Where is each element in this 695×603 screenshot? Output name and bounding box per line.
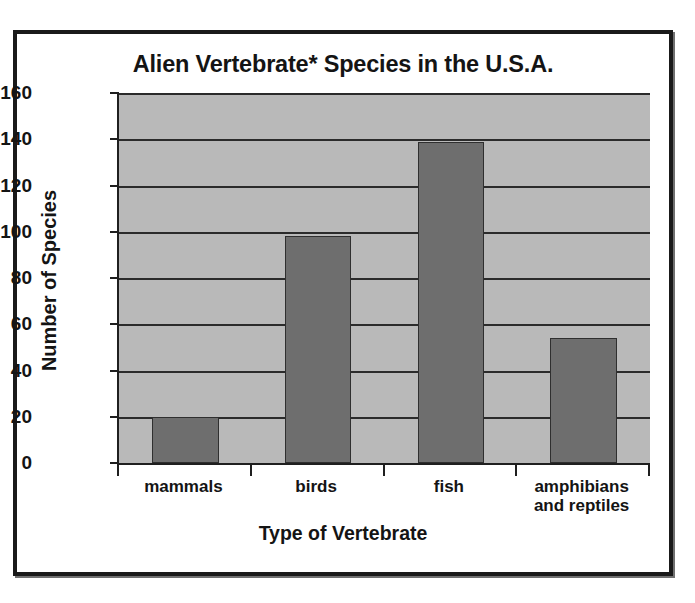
gridline-160 <box>119 93 650 95</box>
x-cat-label-line: amphibians <box>507 477 657 496</box>
y-tick-mark-80 <box>110 277 119 279</box>
bar-mammals <box>152 417 218 463</box>
y-tick-mark-20 <box>110 416 119 418</box>
y-tick-mark-100 <box>110 231 119 233</box>
y-tick-label-80: 80 <box>0 267 32 289</box>
x-tick-mark-1 <box>250 465 252 476</box>
chart-title: Alien Vertebrate* Species in the U.S.A. <box>17 51 669 78</box>
bar-amphibians-and-reptiles <box>550 338 616 463</box>
y-tick-label-120: 120 <box>0 175 32 197</box>
x-tick-mark-3 <box>515 465 517 476</box>
bar-birds <box>285 236 351 463</box>
x-category-label-amphibians-and-reptiles: amphibiansand reptiles <box>507 477 657 515</box>
x-axis-title: Type of Vertebrate <box>17 522 669 545</box>
x-tick-mark-0 <box>117 465 119 476</box>
y-tick-label-20: 20 <box>0 406 32 428</box>
y-tick-mark-120 <box>110 185 119 187</box>
y-tick-mark-40 <box>110 370 119 372</box>
gridline-120 <box>119 186 650 188</box>
x-cat-label-line: birds <box>241 477 391 496</box>
y-tick-mark-60 <box>110 323 119 325</box>
x-cat-label-line: mammals <box>108 477 258 496</box>
gridline-100 <box>119 232 650 234</box>
x-tick-mark-end <box>648 465 650 476</box>
x-category-label-fish: fish <box>374 477 524 496</box>
plot-area <box>117 93 650 465</box>
y-tick-mark-160 <box>110 92 119 94</box>
y-tick-mark-0 <box>110 462 119 464</box>
x-cat-label-line: fish <box>374 477 524 496</box>
y-tick-label-0: 0 <box>0 452 32 474</box>
y-tick-label-140: 140 <box>0 128 32 150</box>
x-cat-label-line: and reptiles <box>507 496 657 515</box>
y-tick-label-60: 60 <box>0 313 32 335</box>
figure-frame: Alien Vertebrate* Species in the U.S.A. … <box>13 30 673 576</box>
gridline-140 <box>119 139 650 141</box>
y-tick-label-100: 100 <box>0 221 32 243</box>
x-category-label-birds: birds <box>241 477 391 496</box>
x-tick-mark-2 <box>383 465 385 476</box>
y-axis-title: Number of Species <box>38 171 61 391</box>
x-category-label-mammals: mammals <box>108 477 258 496</box>
gridline-60 <box>119 324 650 326</box>
y-tick-label-40: 40 <box>0 360 32 382</box>
bar-fish <box>418 142 484 463</box>
gridline-80 <box>119 278 650 280</box>
y-tick-mark-140 <box>110 138 119 140</box>
y-tick-label-160: 160 <box>0 82 32 104</box>
